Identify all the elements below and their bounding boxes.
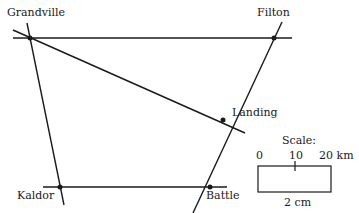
town-point-grandville — [28, 36, 33, 41]
label-grandville: Grandville — [7, 7, 65, 18]
road-grandville-landing — [13, 30, 245, 133]
town-point-landing — [221, 118, 226, 123]
scale-tick-0: 0 — [256, 150, 263, 161]
label-battle: Battle — [206, 190, 240, 201]
scale-tick-20: 20 km — [319, 150, 354, 161]
map-diagram — [0, 0, 359, 213]
scale-title: Scale: — [282, 135, 316, 146]
label-landing: Landing — [232, 107, 278, 118]
scale-tick-10: 10 — [289, 150, 303, 161]
label-kaldor: Kaldor — [17, 190, 54, 201]
town-point-kaldor — [58, 185, 63, 190]
scale-length-label: 2 cm — [284, 197, 311, 208]
label-filton: Filton — [257, 7, 290, 18]
town-point-filton — [272, 36, 277, 41]
